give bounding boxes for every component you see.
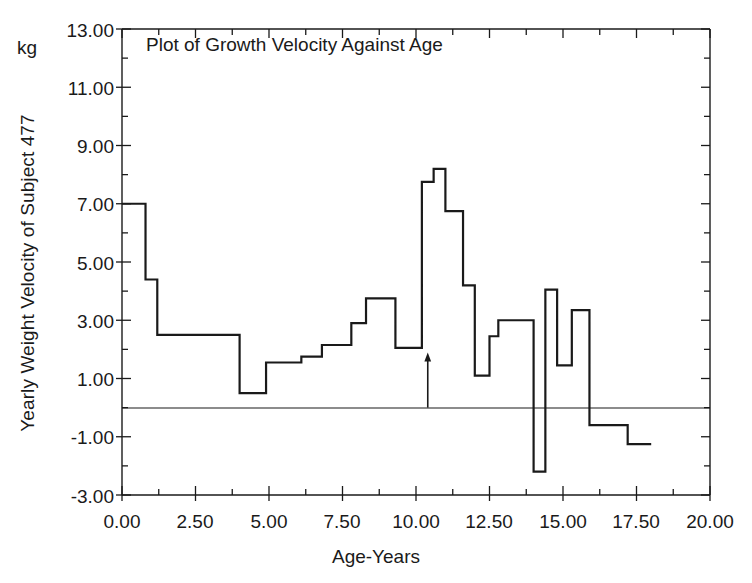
y-tick-label-1: 1.00 (28, 370, 114, 389)
y-tick-label-11: 11.00 (28, 79, 114, 98)
x-tick-label-20: 20.00 (665, 512, 752, 531)
y-tick-label-7: 7.00 (28, 195, 114, 214)
peak-onset-arrow-icon (424, 353, 431, 408)
y-tick-label-9: 9.00 (28, 137, 114, 156)
y-tick-label-neg3: -3.00 (28, 487, 114, 506)
growth-velocity-chart-figure: kg Yearly Weight Velocity of Subject 477… (0, 0, 752, 583)
growth-velocity-step-series (122, 169, 651, 472)
y-tick-label-13: 13.00 (28, 21, 114, 40)
y-tick-label-5: 5.00 (28, 254, 114, 273)
tick-marks-group (116, 29, 710, 501)
y-tick-label-3: 3.00 (28, 312, 114, 331)
chart-title: Plot of Growth Velocity Against Age (146, 34, 443, 56)
y-tick-label-neg1: -1.00 (28, 428, 114, 447)
x-axis-title: Age-Years (0, 546, 752, 568)
